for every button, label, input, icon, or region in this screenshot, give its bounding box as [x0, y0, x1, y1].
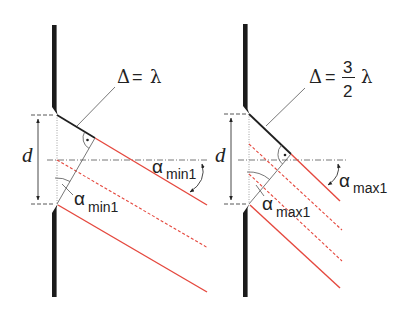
right-angle-dot — [86, 139, 89, 142]
angle-label-bottom: α max1 — [262, 193, 310, 220]
ray-top — [291, 154, 340, 201]
left-panel: d Δ = λ α min1 α min1 — [22, 25, 208, 297]
path-difference-label: Δ = λ — [117, 66, 161, 87]
svg-text:=: = — [325, 67, 336, 87]
slit-width-label: d — [22, 143, 33, 167]
svg-text:λ: λ — [361, 66, 372, 87]
svg-text:Δ: Δ — [309, 66, 322, 87]
ray-bottom — [58, 205, 207, 292]
angle-label-right: α max1 — [339, 170, 387, 196]
path-difference-label: Δ = 3 2 λ — [309, 58, 372, 101]
slit-wall-bottom — [52, 204, 58, 297]
svg-text:α: α — [152, 156, 163, 177]
slit-wall-top — [243, 24, 249, 114]
svg-text:max1: max1 — [276, 204, 310, 220]
svg-text:min1: min1 — [88, 199, 119, 215]
slit-width-label: d — [215, 143, 226, 167]
right-panel: d Δ = 3 2 λ α max1 α max1 — [215, 24, 387, 297]
svg-text:α: α — [74, 188, 85, 209]
delta-leader-line — [77, 87, 115, 126]
slit-wall-bottom — [243, 204, 249, 297]
angle-arrow-arc-right — [328, 164, 339, 185]
svg-text:=: = — [132, 67, 143, 87]
angle-label-right: α min1 — [152, 156, 197, 182]
delta-leader-line — [266, 88, 305, 126]
svg-text:Δ: Δ — [117, 66, 130, 87]
angle-label-bottom: α min1 — [74, 188, 119, 215]
svg-text:3: 3 — [343, 58, 352, 77]
svg-text:λ: λ — [150, 66, 161, 87]
path-difference-segment — [57, 115, 95, 138]
svg-text:α: α — [339, 170, 350, 191]
right-angle-dot — [284, 154, 287, 157]
svg-text:α: α — [262, 193, 273, 214]
single-slit-diffraction-diagram: d Δ = λ α min1 α min1 — [0, 0, 406, 312]
path-difference-segment — [249, 114, 291, 154]
svg-text:min1: min1 — [166, 166, 197, 182]
svg-text:2: 2 — [343, 82, 352, 101]
svg-text:max1: max1 — [353, 180, 387, 196]
right-angle-arc — [278, 145, 283, 164]
slit-wall-top — [52, 25, 58, 115]
